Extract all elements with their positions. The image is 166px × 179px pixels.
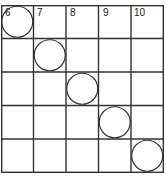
column-label-8: 8 — [70, 8, 76, 18]
column-label-9: 9 — [103, 8, 109, 18]
circle-cell-4-4 — [132, 140, 163, 171]
column-label-6: 6 — [5, 8, 11, 18]
circle-cell-1-1 — [34, 40, 65, 71]
grid-lines — [1, 5, 164, 173]
column-label-7: 7 — [37, 8, 43, 18]
circle-cell-3-3 — [99, 107, 130, 138]
column-label-10: 10 — [134, 8, 145, 18]
circle-cell-2-2 — [67, 73, 98, 104]
grid-diagram: 6 7 8 9 10 — [1, 5, 164, 173]
